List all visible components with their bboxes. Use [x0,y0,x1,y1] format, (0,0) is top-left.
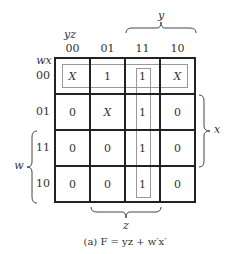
cell-r3-c1: 0 [90,166,125,202]
brace-label-z: z [117,220,135,232]
grid-line [54,57,56,203]
grid-line [194,57,196,203]
brace-label-x: x [210,124,224,136]
col-header-11: 11 [125,43,160,55]
cell-r3-c3: 0 [160,166,195,202]
cell-r3-c0: 0 [55,166,90,202]
col-header-10: 10 [160,43,195,55]
cell-r3-c2: 1 [125,166,160,202]
row-header-00: 00 [32,70,54,82]
grid-line [159,57,161,203]
figure-caption: (a) F = yz + w′x′ [60,236,190,248]
cell-r0-c2: 1 [125,58,160,94]
cell-r0-c3: X [160,58,195,94]
grid-line [124,57,126,203]
cell-r1-c2: 1 [125,94,160,130]
cell-r2-c0: 0 [55,130,90,166]
kmap-grid: X 1 1 X 0 X 1 0 0 0 1 0 0 0 1 0 [55,58,195,202]
cell-r2-c3: 0 [160,130,195,166]
cell-r2-c2: 1 [125,130,160,166]
cell-r1-c3: 0 [160,94,195,130]
brace-label-w: w [12,160,26,172]
col-header-01: 01 [90,43,125,55]
kmap-figure: yz wx 00 01 11 10 00 01 11 10 y x w z X … [0,0,236,254]
grid-line [89,57,91,203]
cell-r2-c1: 0 [90,130,125,166]
col-var-label: yz [60,29,80,41]
brace-w [25,129,39,205]
row-var-label: wx [34,55,54,67]
cell-r0-c0: X [55,58,90,94]
col-header-00: 00 [55,43,90,55]
cell-r1-c1: X [90,94,125,130]
brace-label-y: y [152,10,170,22]
cell-r0-c1: 1 [90,58,125,94]
row-header-01: 01 [32,106,54,118]
cell-r1-c0: 0 [55,94,90,130]
